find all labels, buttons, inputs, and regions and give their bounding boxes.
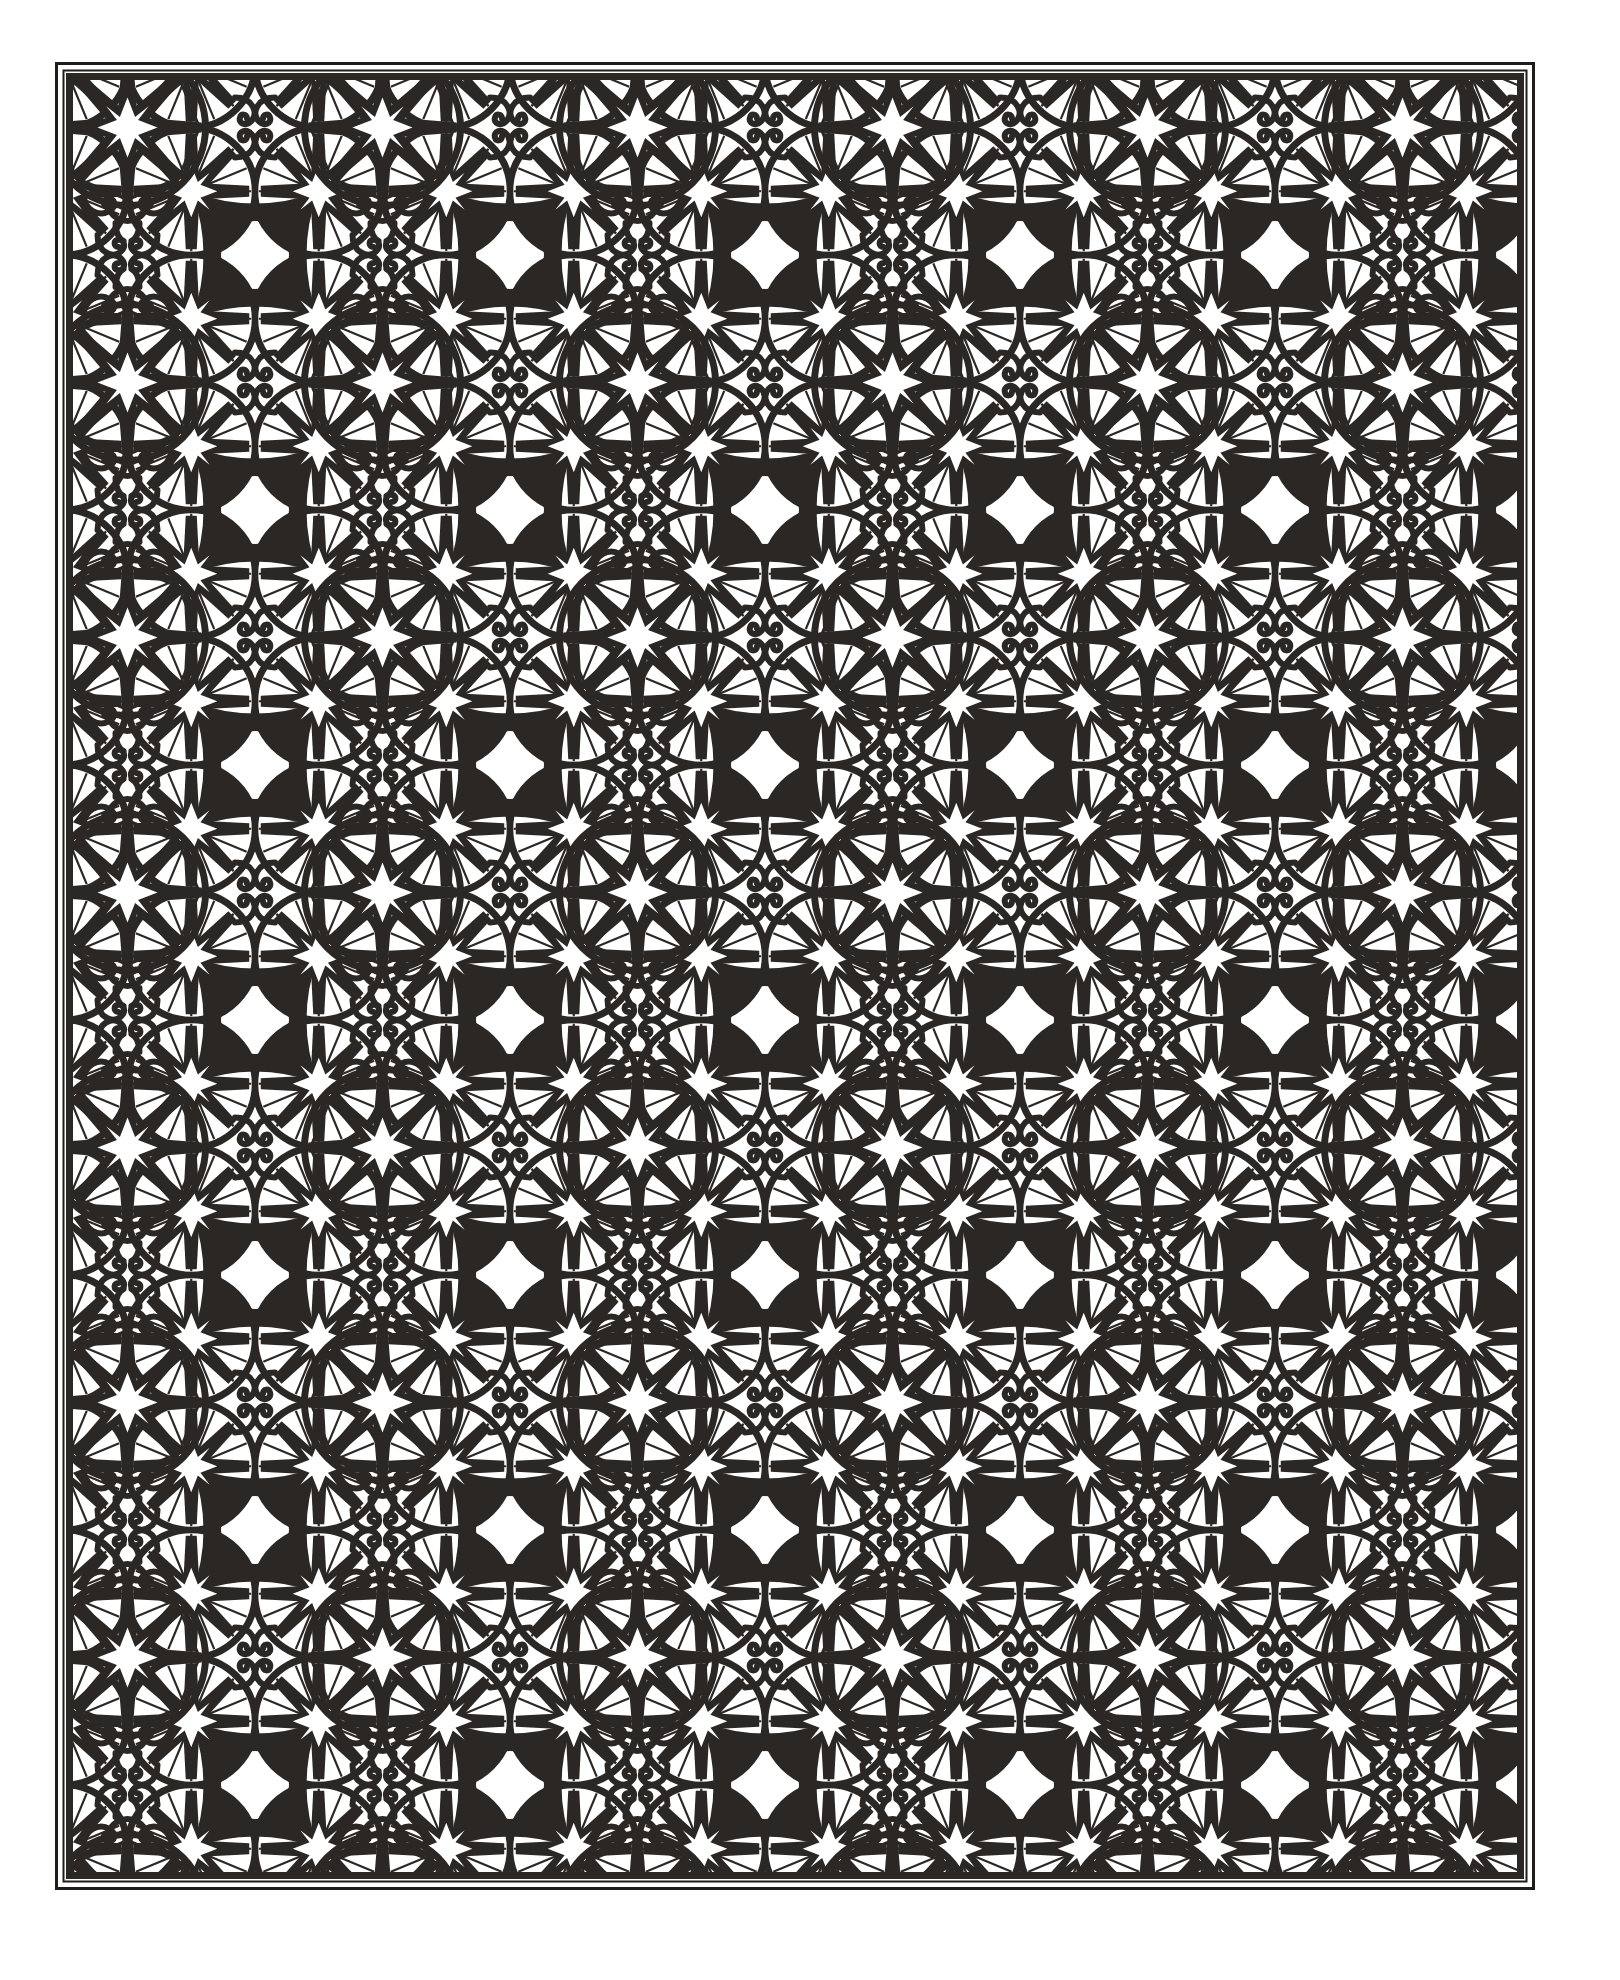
ornament-field: [0, 0, 1522, 1877]
ornament-plate: Geometric Rosette Lattice Plate Black-an…: [0, 0, 1620, 1980]
pattern-canvas: [0, 0, 1620, 1980]
